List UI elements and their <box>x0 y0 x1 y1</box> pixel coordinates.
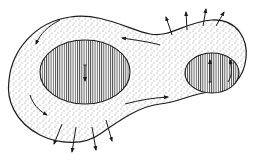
diagram-canvas <box>0 0 257 162</box>
